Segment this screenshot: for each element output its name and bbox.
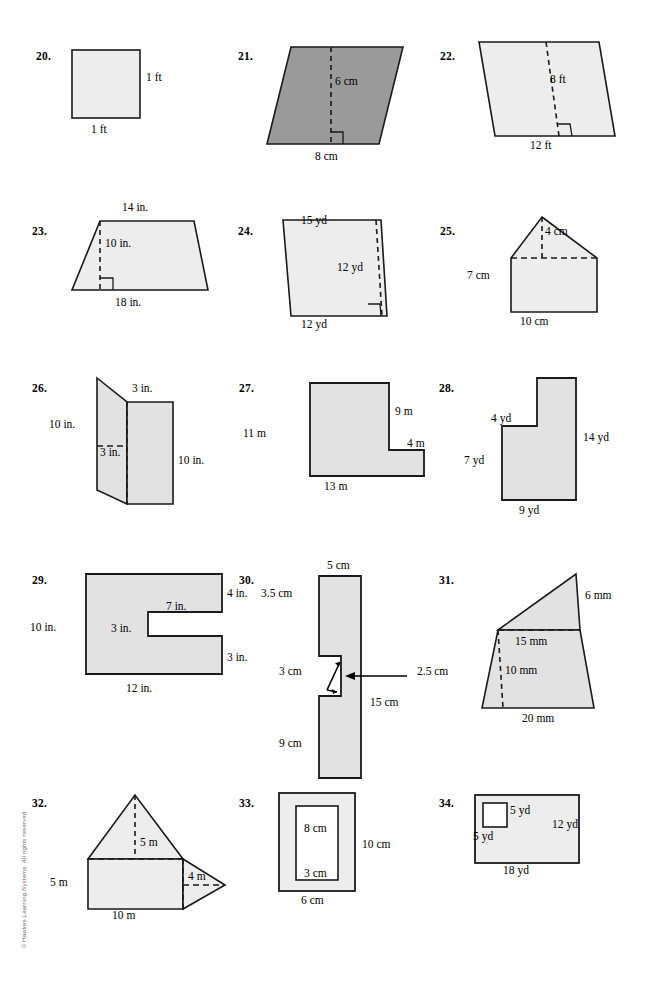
problem-34-label-outer-height: 12 yd <box>552 819 578 831</box>
problem-32-number: 32. <box>32 797 47 809</box>
problem-33-label-inner-height: 8 cm <box>304 823 327 835</box>
problem-30-label-right-height: 15 cm <box>370 697 398 709</box>
problem-27-label-step-width: 4 m <box>407 438 425 450</box>
problem-27-number: 27. <box>239 382 254 394</box>
problem-23-label-height: 10 in. <box>105 238 131 250</box>
problem-34-label-outer-width: 18 yd <box>503 865 529 877</box>
figure-23-trapezoid <box>58 216 238 326</box>
problem-23-label-bottom-base: 18 in. <box>115 297 141 309</box>
problem-24-label-bottom-base: 12 yd <box>301 319 327 331</box>
figure-33-rect-in-rect <box>274 787 424 912</box>
problem-23-label-top-base: 14 in. <box>122 202 148 214</box>
figure-20-square <box>70 48 170 148</box>
problem-30-label-notch-height: 3 cm <box>279 666 302 678</box>
problem-20-label-right-side: 1 ft <box>146 72 162 84</box>
figure-32-composite <box>55 787 255 917</box>
problem-32-label-left-height: 5 m <box>50 877 68 889</box>
copyright-notice: © Hawkes Learning Systems. All rights re… <box>20 779 27 949</box>
problem-27-label-left-height: 11 m <box>243 428 266 440</box>
problem-29-label-notch-width: 7 in. <box>166 601 186 613</box>
problem-31-label-right-side: 6 mm <box>585 590 612 602</box>
problem-26-label-top-width: 3 in. <box>132 383 152 395</box>
problem-29-label-left-height: 10 in. <box>30 622 56 634</box>
problem-31-number: 31. <box>439 574 454 586</box>
problem-26-label-inner-width: 3 in. <box>100 447 120 459</box>
problem-29-label-notch-height: 3 in. <box>111 623 131 635</box>
problem-26-number: 26. <box>32 382 47 394</box>
problem-31-label-middle-width: 15 mm <box>515 636 547 648</box>
figure-26-parallelogram-rectangle <box>80 372 230 512</box>
problem-28-label-right-height: 14 yd <box>583 432 609 444</box>
figure-25-house-pentagon <box>497 212 647 327</box>
problem-20-number: 20. <box>36 50 51 62</box>
problem-25-label-triangle-height: 4 cm <box>545 226 568 238</box>
figure-28-l-shape <box>482 372 642 512</box>
problem-32-label-bottom-width: 10 m <box>112 910 135 922</box>
problem-29-label-bottom-width: 12 in. <box>126 683 152 695</box>
problem-28-label-left-height: 7 yd <box>464 455 484 467</box>
problem-29-number: 29. <box>32 574 47 586</box>
figure-21-parallelogram <box>263 44 423 159</box>
problem-20-label-bottom-side: 1 ft <box>91 124 107 136</box>
figure-24-trapezoid <box>267 216 417 336</box>
figure-22-parallelogram <box>467 38 637 158</box>
problem-30-number: 30. <box>239 574 254 586</box>
problem-33-label-outer-height: 10 cm <box>362 839 390 851</box>
problem-24-label-top-base: 15 yd <box>301 215 327 227</box>
problem-30-label-upper-left-height: 3.5 cm <box>261 588 292 600</box>
figure-30-notched-rectangle <box>307 570 487 790</box>
problem-30-label-notch-width: 2.5 cm <box>417 666 448 678</box>
problem-33-number: 33. <box>239 797 254 809</box>
problem-27-label-bottom-width: 13 m <box>324 481 347 493</box>
problem-27-label-right-upper: 9 m <box>395 406 413 418</box>
problem-34-label-square-side-bottom: 5 yd <box>473 831 493 843</box>
problem-28-number: 28. <box>439 382 454 394</box>
problem-21-label-base: 8 cm <box>315 151 338 163</box>
problem-33-label-inner-width: 3 cm <box>304 868 327 880</box>
problem-34-number: 34. <box>439 797 454 809</box>
worksheet-page: © Hawkes Learning Systems. All rights re… <box>0 0 667 986</box>
problem-21-number: 21. <box>238 50 253 62</box>
figure-34-rect-with-cutout <box>470 789 630 899</box>
problem-32-label-top-triangle-height: 5 m <box>140 837 158 849</box>
problem-33-label-outer-width: 6 cm <box>301 895 324 907</box>
problem-28-label-bottom-width: 9 yd <box>519 505 539 517</box>
problem-22-number: 22. <box>440 50 455 62</box>
problem-32-label-right-triangle-height: 4 m <box>188 871 206 883</box>
problem-29-label-bottom-right-height: 3 in. <box>227 652 247 664</box>
problem-24-number: 24. <box>238 225 253 237</box>
problem-30-label-lower-left-height: 9 cm <box>279 738 302 750</box>
problem-25-number: 25. <box>440 225 455 237</box>
problem-22-label-height: 8 ft <box>550 74 566 86</box>
problem-24-label-height: 12 yd <box>337 262 363 274</box>
problem-34-label-square-side-right: 5 yd <box>510 805 530 817</box>
problem-30-label-top-width: 5 cm <box>327 560 350 572</box>
problem-21-label-height: 6 cm <box>335 76 358 88</box>
figure-31-triangle-trapezoid <box>472 568 652 728</box>
problem-26-label-right-height: 10 in. <box>178 455 204 467</box>
problem-28-label-notch-width: 4 yd <box>491 413 511 425</box>
problem-23-number: 23. <box>32 225 47 237</box>
problem-26-label-left-height: 10 in. <box>49 419 75 431</box>
problem-22-label-base: 12 ft <box>530 140 551 152</box>
problem-29-label-top-right-height: 4 in. <box>227 588 247 600</box>
problem-25-label-base: 10 cm <box>520 316 548 328</box>
problem-31-label-bottom-width: 20 mm <box>522 713 554 725</box>
problem-25-label-left-side: 7 cm <box>467 270 490 282</box>
problem-31-label-height: 10 mm <box>505 665 537 677</box>
